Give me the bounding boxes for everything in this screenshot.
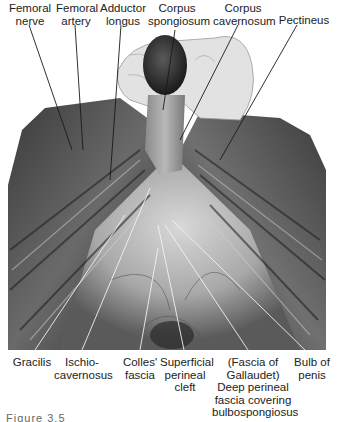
label-bulb-of-penis: Bulb of penis — [292, 356, 332, 381]
glans — [143, 35, 187, 95]
label-gracilis: Gracilis — [12, 356, 52, 369]
label-femoral-artery: Femoral artery — [56, 2, 96, 27]
gloved-hand — [118, 37, 254, 120]
anatomy-figure: Femoral nerve Femoral artery Adductor lo… — [0, 0, 339, 422]
label-adductor-longus: Adductor longus — [100, 2, 146, 27]
label-corpus-cavernosum: Corpus cavernosum — [213, 2, 273, 27]
label-deep-perineal-fascia: (Fascia of Gallaudet) Deep perineal fasc… — [212, 356, 294, 419]
label-ischiocavernosus: Ischio- cavernosus — [54, 356, 110, 381]
figure-caption: Figure 3.5 — [6, 412, 66, 422]
label-colles-fascia: Colles' fascia — [120, 356, 160, 381]
label-pectineus: Pectineus — [276, 14, 332, 27]
label-corpus-spongiosum: Corpus spongiosum — [148, 2, 206, 27]
label-femoral-nerve: Femoral nerve — [8, 2, 52, 27]
label-superficial-perineal-cleft: Superficial perineal cleft — [160, 356, 210, 394]
